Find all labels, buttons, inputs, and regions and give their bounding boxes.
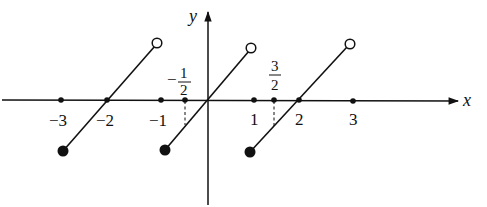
svg-text:1: 1 (180, 65, 188, 81)
tick-label-neg-half: − 1 2 (167, 65, 191, 98)
tick-label-neg1: −1 (149, 111, 167, 130)
filled-endpoint (160, 145, 171, 156)
open-endpoint (345, 39, 355, 49)
svg-text:3: 3 (271, 58, 279, 74)
filled-endpoint (245, 147, 256, 158)
filled-endpoint (58, 146, 69, 157)
tick-label-neg3: −3 (49, 111, 67, 130)
svg-text:2: 2 (180, 82, 188, 98)
tick-label-three-halves: 3 2 (269, 58, 281, 93)
segment-1 (58, 38, 162, 156)
open-endpoint (246, 43, 256, 53)
svg-text:2: 2 (271, 77, 279, 93)
open-endpoint (152, 38, 162, 48)
x-axis (2, 100, 458, 101)
svg-text:−: − (167, 70, 177, 89)
tick-label-neg2: −2 (96, 111, 114, 130)
segment-3 (245, 39, 355, 157)
tick-label-2: 2 (295, 110, 304, 129)
x-axis-label: x (462, 90, 471, 110)
y-axis-label: y (187, 6, 197, 26)
tick-label-3: 3 (349, 110, 358, 129)
tick-label-1: 1 (250, 110, 259, 129)
function-graph: x y −3 −2 −1 1 2 3 − 1 2 (0, 0, 487, 207)
